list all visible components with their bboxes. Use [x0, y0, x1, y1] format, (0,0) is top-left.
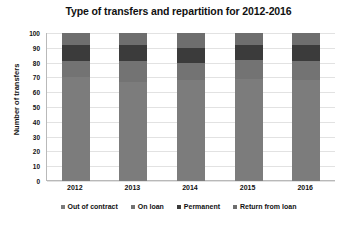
x-tick-label: 2013	[104, 184, 162, 191]
x-tick-label: 2015	[219, 184, 277, 191]
bar-segment[interactable]	[119, 61, 147, 82]
legend-swatch-icon	[233, 205, 237, 209]
y-tick-label: 90	[14, 44, 40, 51]
legend-item[interactable]: Permanent	[177, 203, 220, 210]
bar-group	[177, 33, 205, 181]
y-tick-label: 100	[14, 30, 40, 37]
y-tick-label: 30	[14, 133, 40, 140]
x-tick-label: 2014	[161, 184, 219, 191]
bar-segment[interactable]	[235, 60, 263, 79]
stacked-bar[interactable]	[119, 33, 147, 181]
legend-label: Permanent	[184, 203, 220, 210]
stacked-bar[interactable]	[62, 33, 90, 181]
bar-group	[235, 33, 263, 181]
legend-label: Return from loan	[240, 203, 296, 210]
legend-item[interactable]: Return from loan	[233, 203, 296, 210]
stacked-bar[interactable]	[292, 33, 320, 181]
y-tick-label: 80	[14, 59, 40, 66]
chart-legend: Out of contractOn loanPermanentReturn fr…	[0, 203, 357, 210]
x-tick-label: 2016	[276, 184, 334, 191]
bar-segment[interactable]	[292, 80, 320, 181]
y-tick-label: 40	[14, 118, 40, 125]
y-tick-label: 70	[14, 74, 40, 81]
bar-segment[interactable]	[119, 82, 147, 181]
bar-segment[interactable]	[292, 45, 320, 61]
bar-segment[interactable]	[235, 45, 263, 60]
stacked-bar[interactable]	[235, 33, 263, 181]
bar-segment[interactable]	[177, 63, 205, 81]
gridline	[47, 181, 335, 182]
bar-group	[119, 33, 147, 181]
bar-segment[interactable]	[119, 45, 147, 61]
legend-swatch-icon	[61, 205, 65, 209]
bar-segment[interactable]	[177, 80, 205, 181]
y-tick-label: 50	[14, 104, 40, 111]
bar-segment[interactable]	[292, 61, 320, 80]
legend-swatch-icon	[131, 205, 135, 209]
bar-segment[interactable]	[62, 45, 90, 61]
x-axis-tick-labels: 20122013201420152016	[46, 184, 334, 198]
bar-group	[292, 33, 320, 181]
legend-item[interactable]: Out of contract	[61, 203, 118, 210]
legend-swatch-icon	[177, 205, 181, 209]
bar-series-layer	[47, 33, 335, 181]
legend-label: Out of contract	[68, 203, 118, 210]
bar-group	[62, 33, 90, 181]
bar-segment[interactable]	[177, 48, 205, 63]
bar-segment[interactable]	[292, 33, 320, 45]
y-tick-label: 20	[14, 148, 40, 155]
bar-segment[interactable]	[177, 33, 205, 48]
bar-segment[interactable]	[235, 79, 263, 181]
y-tick-label: 0	[14, 178, 40, 185]
chart-title: Type of transfers and repartition for 20…	[0, 5, 357, 17]
bar-segment[interactable]	[235, 33, 263, 45]
bar-segment[interactable]	[119, 33, 147, 45]
bar-segment[interactable]	[62, 33, 90, 45]
y-tick-label: 10	[14, 163, 40, 170]
y-tick-label: 60	[14, 89, 40, 96]
legend-label: On loan	[138, 203, 164, 210]
x-tick-label: 2012	[46, 184, 104, 191]
bar-segment[interactable]	[62, 77, 90, 181]
bar-segment[interactable]	[62, 61, 90, 77]
stacked-bar[interactable]	[177, 33, 205, 181]
chart-container: Type of transfers and repartition for 20…	[0, 0, 357, 225]
plot-area	[46, 33, 335, 181]
legend-item[interactable]: On loan	[131, 203, 164, 210]
